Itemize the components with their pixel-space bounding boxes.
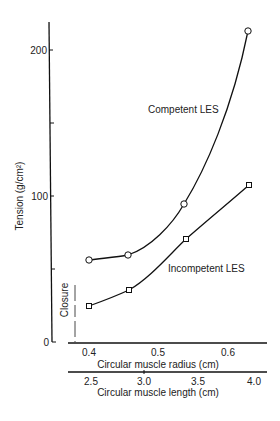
incompetent-les-curve bbox=[89, 185, 249, 306]
x2-tick-label-2.5: 2.5 bbox=[84, 376, 98, 387]
chart: 200 100 0 Tension (g/cm²) 0.4 0.5 0.6 Ci… bbox=[0, 0, 280, 421]
incompetent-point-2 bbox=[127, 288, 132, 293]
y-tick-label-0: 0 bbox=[43, 337, 49, 348]
y-axis bbox=[49, 22, 52, 342]
x2-tick-label-3.5: 3.5 bbox=[191, 376, 205, 387]
x-tick-label-0.6: 0.6 bbox=[221, 347, 235, 358]
closure-label: Closure bbox=[59, 282, 70, 317]
incompetent-point-3 bbox=[184, 237, 189, 242]
competent-point-4 bbox=[245, 28, 251, 34]
incompetent-point-4 bbox=[247, 183, 252, 188]
y-tick-label-200: 200 bbox=[30, 45, 47, 56]
competent-les-curve bbox=[89, 31, 248, 260]
x-axis-label-radius: Circular muscle radius (cm) bbox=[97, 359, 219, 370]
competent-point-1 bbox=[86, 257, 92, 263]
competent-les-label: Competent LES bbox=[148, 104, 219, 115]
x2-tick-label-4.0: 4.0 bbox=[247, 376, 261, 387]
incompetent-point-1 bbox=[87, 304, 92, 309]
x2-tick-label-3.0: 3.0 bbox=[137, 376, 151, 387]
competent-point-3 bbox=[181, 201, 187, 207]
y-tick-label-100: 100 bbox=[31, 191, 48, 202]
x-tick-label-0.4: 0.4 bbox=[82, 347, 96, 358]
competent-point-2 bbox=[125, 252, 131, 258]
x-tick-label-0.5: 0.5 bbox=[151, 347, 165, 358]
incompetent-les-label: Incompetent LES bbox=[168, 263, 245, 274]
y-axis-label: Tension (g/cm²) bbox=[14, 162, 25, 231]
x-axis-label-length: Circular muscle length (cm) bbox=[97, 387, 219, 398]
